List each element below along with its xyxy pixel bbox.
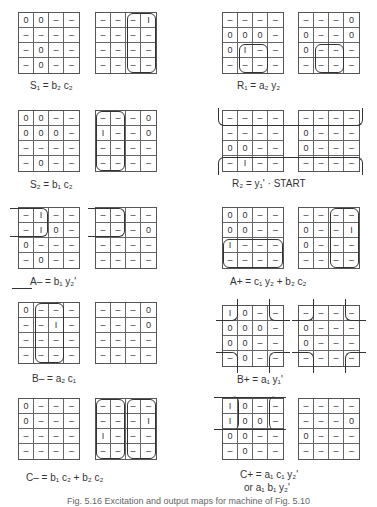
kmap-cell: – [299, 306, 314, 321]
kmap-cell: – [111, 111, 126, 126]
kmap-cell: – [299, 414, 314, 429]
equation-r1: R₁ = a₂ y₂ [237, 80, 280, 91]
kmap-cell: 0 [238, 208, 253, 223]
kmap-cell: – [49, 348, 64, 363]
kmap-cell: – [64, 414, 79, 429]
kmap-cell: 0 [344, 414, 359, 429]
kmap-cell: – [329, 336, 344, 351]
kmap-cell: – [314, 306, 329, 321]
kmap-cell: – [344, 336, 359, 351]
kmap-cell: 0 [19, 111, 34, 126]
kmap-cell: – [141, 156, 156, 171]
kmap-cell: 0 [223, 223, 238, 238]
kmap-cell: I [34, 208, 49, 223]
kmap-cell: – [299, 253, 314, 268]
kmap-cell: 0 [141, 126, 156, 141]
kmap-cell: – [329, 156, 344, 171]
kmap-cell: – [49, 303, 64, 318]
kmap-cell: – [141, 333, 156, 348]
kmap-cell: – [64, 208, 79, 223]
kmap-cell: – [96, 303, 111, 318]
kmap-cell: – [111, 303, 126, 318]
equation-b-minus: B– = a₂ c₁ [32, 373, 76, 384]
kmap-cell: I [238, 43, 253, 58]
kmap-cell: – [253, 336, 268, 351]
kmap-cell: 0 [238, 444, 253, 459]
kmap-cell: – [49, 253, 64, 268]
kmap-cell: 0 [223, 208, 238, 223]
kmap-cell: – [344, 111, 359, 126]
kmap-cell: – [64, 444, 79, 459]
kmap-cell: – [126, 223, 141, 238]
kmap-cell: – [268, 111, 283, 126]
kmap-cell: – [329, 43, 344, 58]
kmap-cell: 0 [238, 223, 253, 238]
kmap-cell: 0 [299, 28, 314, 43]
kmap-cell: – [34, 333, 49, 348]
kmap-cell: 0 [238, 429, 253, 444]
kmap-cell: – [96, 156, 111, 171]
kmap-cell: – [19, 28, 34, 43]
kmap-cell: – [314, 43, 329, 58]
kmap-cell: – [96, 318, 111, 333]
kmap-cell: I [223, 399, 238, 414]
kmap-cell: – [111, 414, 126, 429]
kmap-cell: – [299, 58, 314, 73]
kmap-cell: – [111, 348, 126, 363]
kmap-cell: – [49, 58, 64, 73]
kmap-cell: – [329, 223, 344, 238]
kmap-cell: 0 [141, 223, 156, 238]
kmap-cell: – [253, 306, 268, 321]
kmap-cell: 0 [34, 253, 49, 268]
kmap-cell: – [329, 253, 344, 268]
kmap-R1-left: ––––000–0I–––––– [222, 12, 284, 74]
kmap-cell: – [34, 444, 49, 459]
kmap-cell: – [268, 126, 283, 141]
kmap-cell: 0 [141, 111, 156, 126]
equation-s1: S₁ = b₂ c₂ [30, 80, 73, 91]
kmap-cell: – [111, 156, 126, 171]
kmap-cell: – [329, 414, 344, 429]
kmap-cell: – [111, 429, 126, 444]
kmap-cell: – [141, 429, 156, 444]
kmap-cell: – [19, 223, 34, 238]
group-line [214, 429, 286, 430]
kmap-cell: – [314, 58, 329, 73]
kmap-cell: 0 [19, 399, 34, 414]
kmap-cell: – [111, 141, 126, 156]
kmap-cell: – [299, 208, 314, 223]
kmap-cell: – [126, 253, 141, 268]
kmap-cell: – [268, 223, 283, 238]
kmap-cell: – [329, 13, 344, 28]
kmap-cell: – [141, 208, 156, 223]
kmap-cell: – [19, 318, 34, 333]
kmap-cell: – [314, 399, 329, 414]
kmap-cell: 0 [299, 126, 314, 141]
kmap-cell: – [314, 429, 329, 444]
kmap-cell: – [314, 28, 329, 43]
kmap-cell: – [268, 429, 283, 444]
kmap-cell: 0 [223, 28, 238, 43]
kmap-cell: – [64, 318, 79, 333]
kmap-cell: – [344, 253, 359, 268]
kmap-cell: – [329, 429, 344, 444]
kmap-cell: – [126, 238, 141, 253]
kmap-cell: I [344, 223, 359, 238]
kmap-cell: – [141, 348, 156, 363]
kmap-cell: – [223, 156, 238, 171]
kmap-cell: – [314, 414, 329, 429]
kmap-cell: – [329, 141, 344, 156]
kmap-cell: – [34, 303, 49, 318]
kmap-cell: 0 [34, 156, 49, 171]
kmap-cell: – [329, 28, 344, 43]
kmap-cell: – [141, 444, 156, 459]
kmap-cell: 0 [238, 28, 253, 43]
kmap-cell: – [111, 333, 126, 348]
kmap-cell: – [253, 253, 268, 268]
kmap-cell: – [19, 208, 34, 223]
kmap-cell: 0 [141, 318, 156, 333]
kmap-S1-right: –––I–––––––––––– [95, 12, 157, 74]
kmap-cell: – [111, 43, 126, 58]
kmap-cell: – [64, 399, 79, 414]
kmap-cell: – [223, 58, 238, 73]
